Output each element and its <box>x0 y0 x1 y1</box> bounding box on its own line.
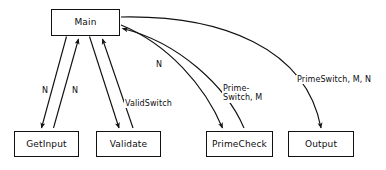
edge-label-n-primecheck: N <box>155 60 163 69</box>
node-output[interactable]: Output <box>288 131 354 157</box>
edge-label-primeswitch-m-line2: Switch, M <box>223 93 262 102</box>
edge-label-primeswitch-m-line1: Prime- <box>223 84 262 93</box>
node-getinput-label: GetInput <box>26 140 67 149</box>
edge-validate-to-main <box>103 39 134 128</box>
edge-primecheck-to-main <box>123 29 245 129</box>
edge-main-to-getinput <box>42 37 67 129</box>
edge-label-n-validate: N <box>71 86 79 95</box>
node-primecheck-label: PrimeCheck <box>212 140 267 149</box>
edge-getinput-to-main <box>54 39 79 128</box>
edge-label-primeswitch-mn: PrimeSwitch, M, N <box>296 75 372 84</box>
node-validate[interactable]: Validate <box>96 131 161 157</box>
node-validate-label: Validate <box>110 140 147 149</box>
node-main-label: Main <box>74 18 96 27</box>
edge-label-primeswitch-m: Prime- Switch, M <box>222 84 263 103</box>
node-output-label: Output <box>305 140 337 149</box>
node-main[interactable]: Main <box>51 9 120 36</box>
edge-main-to-output <box>121 17 321 128</box>
edge-main-to-validate <box>90 37 120 129</box>
node-getinput[interactable]: GetInput <box>14 131 79 157</box>
edge-label-n-getinput: N <box>41 86 49 95</box>
node-primecheck[interactable]: PrimeCheck <box>206 131 273 157</box>
edge-label-validswitch: ValidSwitch <box>124 99 173 108</box>
structure-chart-diagram: Main GetInput Validate PrimeCheck Output… <box>0 0 386 170</box>
